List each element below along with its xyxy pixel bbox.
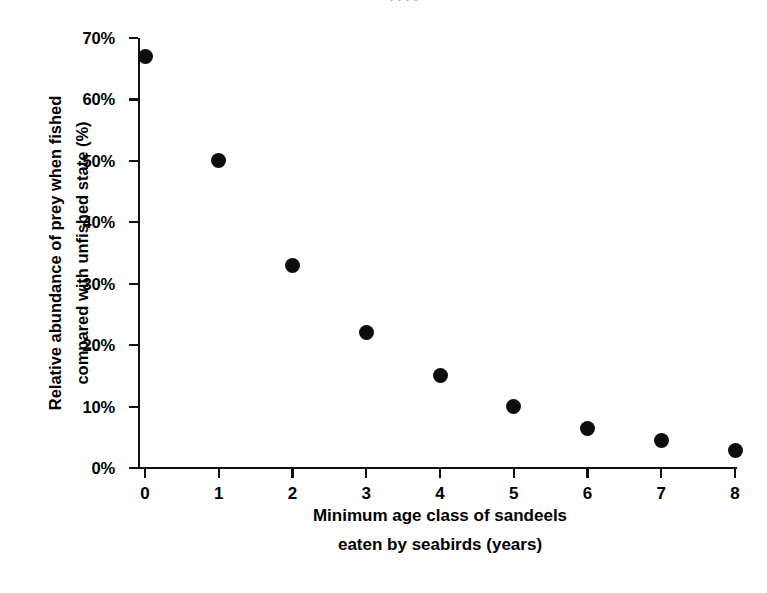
x-tick-label: 4 xyxy=(435,484,444,504)
y-axis-title-line1: Relative abundance of prey when fished xyxy=(45,96,66,411)
x-axis-spine xyxy=(138,467,737,469)
y-tick-mark xyxy=(129,467,138,469)
y-tick-mark xyxy=(129,160,138,162)
x-tick-mark-2 xyxy=(291,469,293,478)
y-tick-mark xyxy=(129,221,138,223)
data-point xyxy=(654,433,669,448)
x-tick-mark-4 xyxy=(439,469,441,478)
x-axis-title: Minimum age class of sandeels eaten by s… xyxy=(145,506,735,556)
x-tick-label: 7 xyxy=(657,484,666,504)
data-point xyxy=(359,325,374,340)
y-tick-mark xyxy=(129,344,138,346)
x-tick-label: 5 xyxy=(509,484,518,504)
x-tick-label: 0 xyxy=(140,484,149,504)
y-tick-mark xyxy=(129,283,138,285)
y-tick-mark xyxy=(129,406,138,408)
data-point xyxy=(580,421,595,436)
x-tick-mark-8 xyxy=(734,469,736,478)
x-tick-mark-0 xyxy=(144,469,146,478)
data-point xyxy=(211,153,226,168)
figure-canvas: l l l J 0%10%20%30%40%50%60%70% 01234567… xyxy=(0,0,767,593)
data-point xyxy=(506,399,521,414)
x-tick-mark-1 xyxy=(218,469,220,478)
x-tick-label: 1 xyxy=(214,484,223,504)
y-axis-title: Relative abundance of prey when fished c… xyxy=(41,38,97,468)
x-tick-label: 2 xyxy=(288,484,297,504)
top-cut-off-text: l l l J xyxy=(390,0,750,3)
data-point xyxy=(728,443,743,458)
x-tick-label: 3 xyxy=(362,484,371,504)
y-tick-mark xyxy=(129,98,138,100)
data-point xyxy=(285,258,300,273)
y-tick-mark xyxy=(129,37,138,39)
data-point xyxy=(433,368,448,383)
plot-area: 0%10%20%30%40%50%60%70% 012345678 Relati… xyxy=(145,38,735,468)
x-tick-mark-6 xyxy=(586,469,588,478)
x-tick-mark-5 xyxy=(513,469,515,478)
x-axis-title-line1: Minimum age class of sandeels xyxy=(313,506,567,526)
y-axis-title-line2: compared with unfished state (%) xyxy=(72,121,93,384)
x-tick-mark-7 xyxy=(660,469,662,478)
x-axis-title-line2: eaten by seabirds (years) xyxy=(338,535,542,555)
x-tick-label: 8 xyxy=(730,484,739,504)
data-point xyxy=(138,49,153,64)
x-tick-mark-3 xyxy=(365,469,367,478)
y-axis-spine xyxy=(138,38,140,469)
x-tick-label: 6 xyxy=(583,484,592,504)
